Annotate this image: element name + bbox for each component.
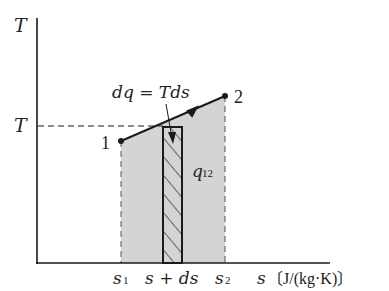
area-label-subscript: 12	[202, 167, 213, 179]
differential-strip	[163, 127, 182, 263]
point-2-label: 2	[234, 87, 243, 107]
t-level-label: T	[14, 114, 28, 136]
s1-tick-subscript: 1	[123, 274, 129, 286]
point-2-marker	[222, 93, 228, 99]
point-1-marker	[118, 138, 124, 144]
equation-label: dq = Tds	[112, 82, 190, 102]
s1-tick-label: s	[113, 268, 122, 288]
ts-diagram: T T 1 2 dq = Tds q 12 s 1 s + ds s 2 s 〔…	[0, 0, 389, 291]
s-plus-ds-tick-label: s + ds	[145, 268, 199, 288]
x-axis-label-unit: 〔J/(kg·K)〕	[267, 270, 353, 288]
point-1-label: 1	[101, 133, 110, 153]
x-axis-label-variable: s	[257, 268, 266, 288]
s2-tick-subscript: 2	[225, 274, 231, 286]
s2-tick-label: s	[215, 268, 224, 288]
y-axis-label: T	[14, 14, 28, 36]
